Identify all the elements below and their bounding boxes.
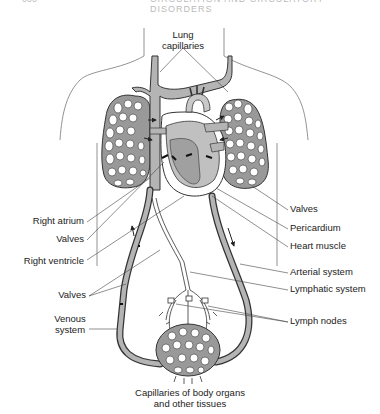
lymphatic-system [152,198,217,330]
right-lung [220,99,268,188]
label-lung-capillaries-line2: capillaries [154,41,212,52]
label-pericardium: Pericardium [290,223,341,234]
label-venous-system-line2: system [50,325,90,336]
label-heart-muscle: Heart muscle [290,241,346,252]
label-right-ventricle: Right ventricle [2,256,84,267]
label-arterial-system: Arterial system [290,267,353,278]
label-venous-system-line1: Venous [50,314,90,325]
left-lung [102,95,150,188]
label-venous-system: Venous system [50,314,90,335]
circulation-diagram [0,0,380,414]
heart [150,86,228,196]
body-capillary-bed [156,324,220,384]
arterial-system [212,196,249,362]
label-valves-lower-left: Valves [2,290,86,301]
label-lung-capillaries: Lung capillaries [154,30,212,51]
label-lymphatic-system: Lymphatic system [290,284,366,295]
label-lymph-nodes: Lymph nodes [290,316,347,327]
label-right-atrium: Right atrium [2,216,84,227]
label-body-capillaries: Capillaries of body organs and other tis… [120,388,260,409]
label-valves-upper-left: Valves [2,234,84,245]
label-body-capillaries-line1: Capillaries of body organs [120,388,260,399]
label-body-capillaries-line2: and other tissues [120,399,260,410]
label-valves-right: Valves [290,204,318,215]
label-lung-capillaries-line1: Lung [154,30,212,41]
